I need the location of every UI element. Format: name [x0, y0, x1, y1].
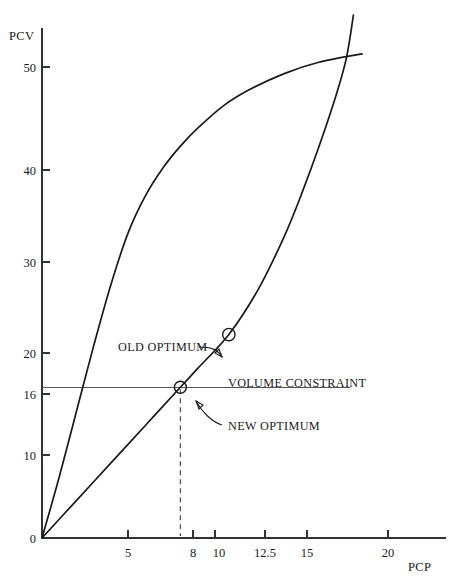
y-tick-label-20: 20	[24, 347, 37, 361]
y-axis-ticks	[42, 67, 50, 455]
old-optimum-label: OLD OPTIMUM	[118, 340, 208, 354]
x-tick-label-8: 8	[190, 546, 196, 560]
chart-figure: 50 40 30 20 16 10 0 5 8 10 12.5 15 20 PC…	[0, 0, 453, 586]
x-axis-label: PCP	[408, 560, 431, 574]
y-axis-label: PCV	[9, 29, 35, 43]
x-tick-label-10: 10	[213, 546, 226, 560]
x-tick-label-20: 20	[382, 546, 395, 560]
y-tick-label-10: 10	[24, 449, 37, 463]
y-tick-label-30: 30	[24, 256, 37, 270]
x-tick-label-12-5: 12.5	[254, 546, 276, 560]
x-tick-label-5: 5	[125, 546, 131, 560]
concave-curve	[42, 54, 362, 538]
convex-curve	[42, 15, 353, 538]
new-optimum-arrowhead	[196, 401, 203, 409]
x-tick-label-15: 15	[301, 546, 314, 560]
new-optimum-leader	[196, 401, 222, 425]
y-tick-label-40: 40	[24, 164, 37, 178]
y-tick-label-0: 0	[30, 532, 36, 546]
volume-constraint-label: VOLUME CONSTRAINT	[228, 376, 367, 390]
x-axis-ticks	[128, 530, 388, 538]
new-optimum-label: NEW OPTIMUM	[228, 419, 320, 433]
y-tick-label-50: 50	[24, 61, 37, 75]
new-optimum-marker	[174, 381, 186, 393]
old-optimum-marker	[223, 328, 235, 340]
chart-svg: 50 40 30 20 16 10 0 5 8 10 12.5 15 20 PC…	[0, 0, 453, 586]
y-tick-label-16: 16	[24, 388, 37, 402]
